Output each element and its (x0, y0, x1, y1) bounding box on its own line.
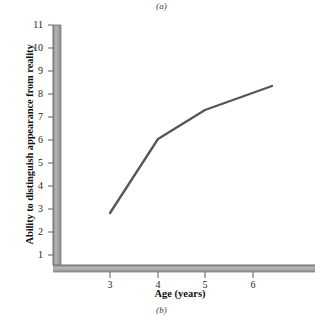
y-axis-ticks (48, 25, 53, 255)
figure-caption-b: (b) (0, 305, 323, 315)
x-axis-label: Age (years) (60, 288, 300, 299)
y-axis-label: Ability to distinguish appearance from r… (24, 30, 35, 260)
figure-container: (a) (0, 0, 323, 327)
figure-caption-a: (a) (0, 1, 323, 11)
x-axis-ticks (110, 272, 253, 278)
data-series-line (110, 86, 272, 213)
chart-svg (0, 14, 323, 304)
x-axis (53, 265, 315, 272)
ytick-label-11: 11 (21, 19, 43, 30)
chart-plot-area: 11 10 9 8 7 6 5 4 3 2 1 3 4 5 6 Ability … (0, 14, 323, 304)
y-axis (53, 25, 61, 265)
